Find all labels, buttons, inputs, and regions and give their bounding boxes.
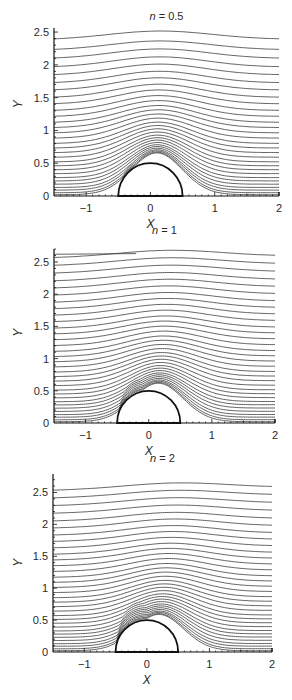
streamline (53, 559, 272, 572)
streamline (53, 580, 272, 597)
panel-title: n = 2 (150, 452, 175, 464)
plot-canvas: n = 2−101200.511.522.5XY (0, 0, 292, 700)
y-tick-label: 1 (42, 582, 48, 594)
x-axis-title: X (142, 673, 152, 687)
streamline-plot-n-2: n = 2−101200.511.522.5XY (0, 0, 292, 700)
streamline (53, 526, 272, 535)
y-tick-label: 0 (42, 646, 48, 658)
y-tick-label: 2.5 (33, 486, 48, 498)
x-tick-label: −1 (78, 658, 91, 670)
streamline (53, 498, 272, 506)
streamline (53, 532, 272, 542)
y-tick-label: 2 (42, 518, 48, 530)
streamline (53, 505, 272, 513)
streamline (53, 490, 272, 498)
y-tick-label: 1.5 (33, 550, 48, 562)
streamline (53, 537, 272, 547)
y-axis-title: Y (11, 558, 25, 567)
x-tick-label: 1 (206, 658, 212, 670)
figure-caption-faint (8, 690, 284, 696)
x-tick-label: 0 (144, 658, 150, 670)
streamline (53, 483, 272, 490)
x-tick-label: 2 (269, 658, 275, 670)
y-tick-label: 0.5 (33, 614, 48, 626)
streamline (53, 519, 272, 528)
